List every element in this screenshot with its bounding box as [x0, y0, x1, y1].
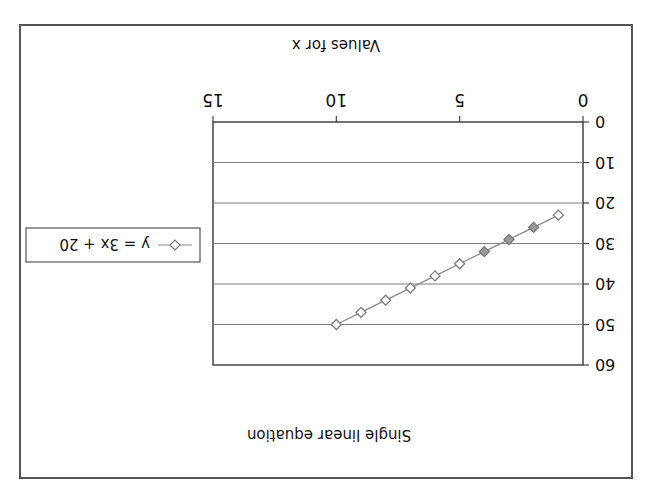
x-tick-label: 5	[454, 90, 465, 110]
y-tick-label: 0	[595, 112, 605, 131]
y-tick-label: 50	[595, 315, 615, 334]
y-tick-label: 60	[595, 355, 615, 374]
y-tick-label: 40	[595, 274, 615, 293]
x-axis-label: Values for x	[292, 36, 380, 54]
chart-title: Single linear equation	[247, 426, 411, 444]
x-tick-label: 10	[326, 90, 348, 110]
y-tick-label: 30	[595, 234, 615, 253]
chart-stage: Single linear equation 0102030405060 051…	[0, 0, 648, 488]
x-tick-label: 15	[202, 90, 224, 110]
y-tick-label: 20	[595, 193, 615, 212]
x-tick-label: 0	[578, 90, 589, 110]
y-tick-label: 10	[595, 153, 615, 172]
legend-label: y = 3x + 20	[59, 235, 150, 253]
chart-svg: Single linear equation 0102030405060 051…	[0, 0, 648, 488]
legend: y = 3x + 20	[26, 228, 200, 262]
